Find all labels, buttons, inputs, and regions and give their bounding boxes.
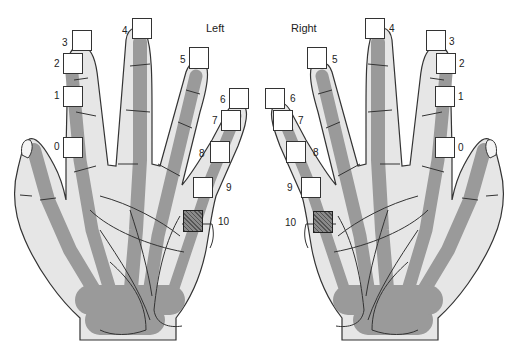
left-hand-label: Left <box>206 22 224 34</box>
electrode-label-1: 1 <box>458 92 464 102</box>
electrode-label-10: 10 <box>285 218 296 228</box>
electrode-box-7 <box>273 110 293 131</box>
electrode-box-4 <box>365 18 385 39</box>
electrode-box-7 <box>221 110 241 131</box>
electrode-box-9 <box>193 177 213 198</box>
right-hand-label: Right <box>291 22 317 34</box>
electrode-label-5: 5 <box>180 55 186 65</box>
electrode-label-4: 4 <box>122 26 128 36</box>
electrode-box-8 <box>210 141 230 163</box>
electrode-label-9: 9 <box>287 183 293 193</box>
hand-electrode-diagram: Left Right 012345678910 012345678910 <box>0 0 518 359</box>
electrode-label-4: 4 <box>389 24 395 34</box>
electrode-label-1: 1 <box>54 91 60 101</box>
electrode-label-8: 8 <box>313 148 319 158</box>
electrode-label-10: 10 <box>218 217 229 227</box>
electrode-label-2: 2 <box>459 59 465 69</box>
electrode-box-3 <box>426 30 446 51</box>
electrode-label-3: 3 <box>449 37 455 47</box>
electrode-box-6 <box>265 88 285 109</box>
electrode-box-0 <box>435 137 455 158</box>
electrode-box-10 <box>313 211 333 233</box>
electrode-label-6: 6 <box>220 95 226 105</box>
electrode-box-2 <box>436 53 456 74</box>
electrode-box-1 <box>63 86 83 107</box>
electrode-label-0: 0 <box>458 143 464 153</box>
electrode-box-0 <box>63 137 83 158</box>
electrode-box-3 <box>72 30 92 51</box>
electrode-box-8 <box>286 141 306 163</box>
electrode-box-10 <box>183 210 203 232</box>
electrode-box-9 <box>301 177 321 198</box>
electrode-box-1 <box>435 86 455 107</box>
electrode-label-7: 7 <box>298 116 304 126</box>
electrode-label-9: 9 <box>226 183 232 193</box>
electrode-label-2: 2 <box>54 59 60 69</box>
electrode-label-8: 8 <box>199 149 205 159</box>
electrode-label-5: 5 <box>332 55 338 65</box>
electrode-label-3: 3 <box>62 38 68 48</box>
electrode-box-2 <box>63 53 83 74</box>
electrode-label-6: 6 <box>290 94 296 104</box>
electrode-label-0: 0 <box>54 142 60 152</box>
electrode-box-5 <box>189 47 209 69</box>
electrode-label-7: 7 <box>212 116 218 126</box>
electrode-box-5 <box>307 47 327 69</box>
electrode-box-6 <box>229 88 249 109</box>
electrode-box-4 <box>132 18 152 39</box>
